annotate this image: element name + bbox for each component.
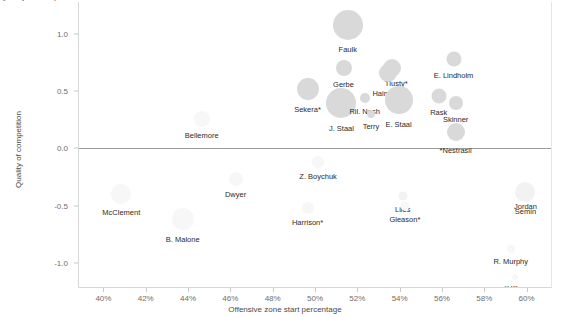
x-axis-tick-mark xyxy=(357,288,358,292)
x-axis-tick-mark xyxy=(527,288,528,292)
y-axis-tick-label: 0.0 xyxy=(28,144,68,153)
x-axis-tick-mark xyxy=(315,288,316,292)
data-point-bubble[interactable] xyxy=(111,184,131,204)
chart-title: Quality of competition vs zone starts xyxy=(0,0,136,1)
data-point-bubble[interactable] xyxy=(507,245,515,253)
x-axis-tick-label: 58% xyxy=(476,294,492,303)
x-axis-tick-mark xyxy=(103,288,104,292)
data-point-label: Skinner xyxy=(443,115,468,124)
x-axis-tick-label: 52% xyxy=(349,294,365,303)
data-point-label: Terry xyxy=(363,122,380,131)
data-point-label: *Nestrasil xyxy=(440,146,472,155)
x-axis-tick-mark xyxy=(484,288,485,292)
data-point-bubble[interactable] xyxy=(512,274,518,280)
x-axis-tick-label: 40% xyxy=(95,294,111,303)
data-point-bubble[interactable] xyxy=(229,172,243,186)
y-axis-tick-label: -1.0 xyxy=(28,258,68,267)
data-point-label: Bellemore xyxy=(185,131,219,140)
x-axis-tick-label: 56% xyxy=(434,294,450,303)
y-axis-title: Quality of competition xyxy=(14,80,23,220)
data-point-label: E. Staal xyxy=(385,120,411,129)
y-axis-tick-label: -0.5 xyxy=(28,201,68,210)
data-point-label: Ril. Nash xyxy=(349,107,379,116)
data-point-bubble[interactable] xyxy=(172,208,194,230)
x-axis-tick-mark xyxy=(442,288,443,292)
y-axis-tick-mark xyxy=(74,148,78,149)
data-point-label: E. Lindholm xyxy=(434,71,474,80)
data-point-bubble[interactable] xyxy=(400,201,409,210)
data-point-label: *Hillen xyxy=(504,284,526,288)
x-axis-tick-label: 42% xyxy=(138,294,154,303)
data-point-bubble[interactable] xyxy=(336,60,352,76)
data-point-label: Gleason* xyxy=(389,215,420,224)
data-point-label: R. Murphy xyxy=(493,257,528,266)
y-axis-tick-mark xyxy=(74,34,78,35)
data-point-bubble[interactable] xyxy=(297,78,319,100)
data-point-bubble[interactable] xyxy=(360,93,370,103)
x-axis-tick-label: 44% xyxy=(180,294,196,303)
y-axis-tick-label: 0.5 xyxy=(28,87,68,96)
data-point-label: Z. Boychuk xyxy=(299,172,337,181)
x-axis-title: Offensive zone start percentage xyxy=(0,305,570,314)
y-axis-tick-label: 1.0 xyxy=(28,30,68,39)
y-axis-tick-mark xyxy=(74,262,78,263)
x-axis-tick-label: 46% xyxy=(222,294,238,303)
data-point-bubble[interactable] xyxy=(312,156,324,168)
x-axis-tick-label: 50% xyxy=(307,294,323,303)
data-point-bubble[interactable] xyxy=(367,110,375,118)
data-point-label: B. Malone xyxy=(166,235,200,244)
x-axis-tick-mark xyxy=(273,288,274,292)
data-point-label: Harrison* xyxy=(292,218,323,227)
data-point-bubble[interactable] xyxy=(431,88,446,103)
data-point-bubble[interactable] xyxy=(333,10,363,40)
data-point-bubble[interactable] xyxy=(385,86,413,114)
y-axis-tick-mark xyxy=(74,205,78,206)
data-point-bubble[interactable] xyxy=(446,52,461,67)
data-point-label: Dwyer xyxy=(225,190,246,199)
x-axis-tick-label: 60% xyxy=(519,294,535,303)
data-point-bubble[interactable] xyxy=(302,202,314,214)
data-point-bubble[interactable] xyxy=(449,96,463,110)
data-point-bubble[interactable] xyxy=(194,111,210,127)
data-point-bubble[interactable] xyxy=(447,123,465,141)
x-axis-tick-mark xyxy=(400,288,401,292)
x-axis-tick-mark xyxy=(188,288,189,292)
data-point-label: McClement xyxy=(102,208,140,217)
data-point-label: Faulk xyxy=(339,45,357,54)
plot-area: FaulkGerbeTlusty*HainseyE. LindholmSeker… xyxy=(78,2,552,288)
data-point-label: J. Staal xyxy=(329,124,354,133)
zero-reference-line xyxy=(79,148,551,149)
data-point-bubble[interactable] xyxy=(515,182,535,202)
y-axis-tick-mark xyxy=(74,91,78,92)
data-point-bubble[interactable] xyxy=(379,64,397,82)
x-axis-tick-label: 48% xyxy=(265,294,281,303)
x-axis-tick-label: 54% xyxy=(392,294,408,303)
x-axis-tick-mark xyxy=(230,288,231,292)
data-point-label: Jordan xyxy=(514,202,537,211)
x-axis-tick-mark xyxy=(146,288,147,292)
data-point-label: Sekera* xyxy=(294,105,321,114)
data-point-bubble[interactable] xyxy=(398,192,407,201)
scatter-chart: Quality of competition vs zone starts Fa… xyxy=(0,0,570,317)
